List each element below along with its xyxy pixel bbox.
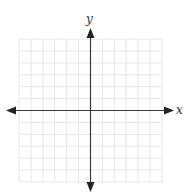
coordinate-plane: [0, 0, 192, 194]
x-axis-label: x: [176, 104, 183, 116]
y-axis-label: y: [86, 13, 93, 25]
x-axis-left-arrow-icon: [6, 107, 16, 115]
y-axis-down-arrow-icon: [87, 182, 95, 192]
y-axis-up-arrow-icon: [87, 28, 95, 38]
x-axis-right-arrow-icon: [164, 107, 174, 115]
